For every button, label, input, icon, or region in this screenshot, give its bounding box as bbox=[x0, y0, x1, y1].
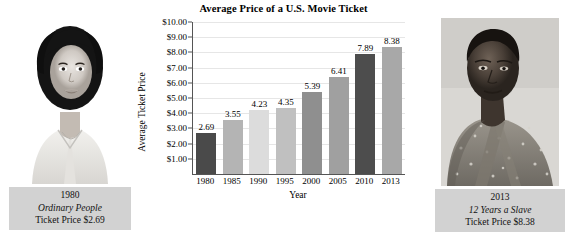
bar-slot[interactable]: 2.69 bbox=[193, 22, 219, 174]
x-tick-label: 2005 bbox=[325, 176, 351, 186]
x-axis-ticks: 19801985199019952000200520102013 bbox=[192, 176, 404, 186]
bar[interactable] bbox=[196, 133, 216, 174]
left-caption-price: Ticket Price $2.69 bbox=[11, 214, 129, 227]
x-tick-label: 2010 bbox=[351, 176, 377, 186]
y-tick-label: $3.00 bbox=[167, 123, 187, 133]
bar-value-label: 2.69 bbox=[198, 122, 214, 132]
right-photo-frame bbox=[441, 18, 559, 186]
bar-value-label: 6.41 bbox=[331, 66, 347, 76]
y-tick-label: $9.00 bbox=[167, 32, 187, 42]
right-caption-film: 12 Years a Slave bbox=[437, 204, 563, 217]
y-tick-label: $1.00 bbox=[167, 154, 187, 164]
bar[interactable] bbox=[249, 110, 269, 174]
x-tick-label: 2000 bbox=[298, 176, 324, 186]
right-caption-price: Ticket Price $8.38 bbox=[437, 216, 563, 229]
y-tick-label: $8.00 bbox=[167, 47, 187, 57]
bar-slot[interactable]: 8.38 bbox=[379, 22, 405, 174]
chart-title: Average Price of a U.S. Movie Ticket bbox=[140, 3, 427, 14]
left-caption-year: 1980 bbox=[11, 189, 129, 202]
bar-value-label: 5.39 bbox=[304, 81, 320, 91]
bar-chart: Average Price of a U.S. Movie Ticket Ave… bbox=[140, 0, 427, 241]
figure-container: 1980 Ordinary People Ticket Price $2.69 … bbox=[0, 0, 573, 241]
x-axis-label: Year bbox=[192, 190, 404, 200]
bar-value-label: 8.38 bbox=[384, 36, 400, 46]
y-axis-label: Average Ticket Price bbox=[137, 37, 147, 187]
plot-area: 2.693.554.234.355.396.417.898.38 bbox=[192, 22, 405, 175]
left-photo-frame bbox=[20, 16, 120, 184]
bar-slot[interactable]: 3.55 bbox=[220, 22, 246, 174]
bar-slot[interactable]: 5.39 bbox=[299, 22, 325, 174]
bar-value-label: 4.23 bbox=[251, 99, 267, 109]
right-photo-panel: 2013 12 Years a Slave Ticket Price $8.38 bbox=[427, 0, 573, 241]
bar[interactable] bbox=[329, 77, 349, 174]
y-tick-label: $4.00 bbox=[167, 108, 187, 118]
bar-slot[interactable]: 4.35 bbox=[273, 22, 299, 174]
bar[interactable] bbox=[276, 108, 296, 174]
bar-slot[interactable]: 6.41 bbox=[326, 22, 352, 174]
portrait-ordinary-people-image bbox=[20, 16, 120, 184]
x-tick-label: 1995 bbox=[272, 176, 298, 186]
left-photo-panel: 1980 Ordinary People Ticket Price $2.69 bbox=[0, 0, 140, 241]
y-axis-ticks: $1.00$2.00$3.00$4.00$5.00$6.00$7.00$8.00… bbox=[152, 22, 192, 174]
portrait-12-years-a-slave-image bbox=[441, 18, 559, 186]
y-tick-label: $5.00 bbox=[167, 93, 187, 103]
bar-slot[interactable]: 7.89 bbox=[352, 22, 378, 174]
left-caption-film: Ordinary People bbox=[11, 202, 129, 215]
bar[interactable] bbox=[382, 47, 402, 174]
right-caption-box: 2013 12 Years a Slave Ticket Price $8.38 bbox=[435, 189, 565, 232]
bar-value-label: 3.55 bbox=[225, 109, 241, 119]
x-tick-label: 1980 bbox=[192, 176, 218, 186]
bar[interactable] bbox=[302, 92, 322, 174]
y-tick-label: $6.00 bbox=[167, 78, 187, 88]
y-tick-label: $10.00 bbox=[162, 17, 187, 27]
bar[interactable] bbox=[223, 120, 243, 174]
bar-value-label: 4.35 bbox=[278, 97, 294, 107]
x-tick-label: 2013 bbox=[378, 176, 404, 186]
bars-group: 2.693.554.234.355.396.417.898.38 bbox=[193, 22, 405, 174]
bar-slot[interactable]: 4.23 bbox=[246, 22, 272, 174]
y-tick-label: $2.00 bbox=[167, 139, 187, 149]
left-caption-box: 1980 Ordinary People Ticket Price $2.69 bbox=[9, 187, 131, 230]
x-tick-label: 1985 bbox=[219, 176, 245, 186]
right-caption-year: 2013 bbox=[437, 191, 563, 204]
x-tick-label: 1990 bbox=[245, 176, 271, 186]
y-tick-label: $7.00 bbox=[167, 63, 187, 73]
bar-value-label: 7.89 bbox=[357, 43, 373, 53]
bar[interactable] bbox=[355, 54, 375, 174]
plot-wrapper: $1.00$2.00$3.00$4.00$5.00$6.00$7.00$8.00… bbox=[152, 22, 410, 218]
